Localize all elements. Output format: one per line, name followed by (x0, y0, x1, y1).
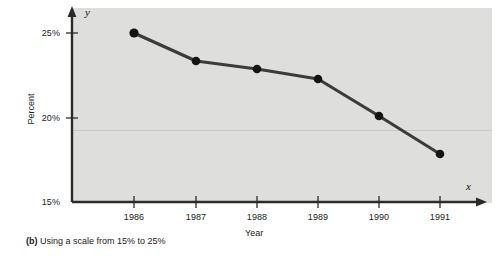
x-tick-label-1987: 1987 (176, 212, 216, 222)
data-point-1991[interactable] (436, 150, 445, 159)
x-tick-label-1990: 1990 (359, 212, 399, 222)
data-point-1989[interactable] (314, 75, 323, 84)
x-variable-label: x (466, 180, 471, 192)
data-series-line (134, 33, 440, 154)
figure-container: 25% 20% 15% 1986 1987 1988 1989 1990 199… (0, 0, 498, 256)
data-point-1988[interactable] (253, 65, 262, 74)
y-tick-label-25: 25% (28, 28, 60, 38)
data-point-1987[interactable] (192, 57, 201, 66)
figure-caption-label: (b) (26, 236, 38, 246)
y-axis-title: Percent (26, 74, 36, 144)
figure-caption: (b) Using a scale from 15% to 25% (26, 236, 166, 246)
x-tick-label-1991: 1991 (420, 212, 460, 222)
y-tick-label-15: 15% (28, 197, 60, 207)
x-tick-label-1988: 1988 (237, 212, 277, 222)
x-axis-title: Year (245, 228, 263, 238)
data-point-markers (129, 28, 444, 158)
y-axis (68, 6, 77, 202)
data-point-1986[interactable] (129, 28, 138, 37)
figure-caption-text: Using a scale from 15% to 25% (40, 236, 166, 246)
x-tick-label-1986: 1986 (114, 212, 154, 222)
y-variable-label: y (85, 6, 90, 18)
data-point-1990[interactable] (375, 112, 384, 121)
x-tick-label-1989: 1989 (298, 212, 338, 222)
